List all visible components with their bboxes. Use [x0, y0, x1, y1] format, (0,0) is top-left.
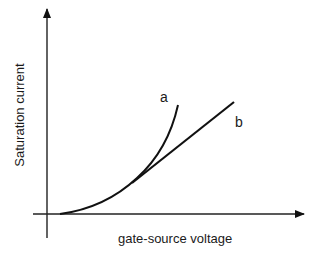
diagram-canvas	[0, 0, 318, 260]
x-axis-label: gate-source voltage	[118, 231, 232, 246]
curve-b-label: b	[235, 114, 243, 130]
line-b	[132, 102, 234, 183]
y-axis-label: Saturation current	[12, 63, 27, 166]
curve-a-label: a	[160, 89, 168, 105]
